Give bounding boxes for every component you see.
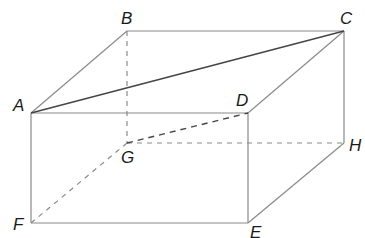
vertex-label-d: D [236,91,248,110]
vertex-label-f: F [13,215,25,234]
vertex-label-h: H [349,136,362,155]
vertex-label-g: G [121,148,134,167]
vertex-labels: ABCDGHFE [12,9,362,238]
visible-edges [31,31,344,223]
prism-diagram: ABCDGHFE [0,0,365,238]
diagonals [31,31,344,143]
hidden-edges [31,31,344,223]
vertex-label-b: B [121,9,132,28]
vertex-label-e: E [250,223,262,238]
diagonal-GD [127,113,248,143]
diagonal-AC [31,31,344,113]
vertex-label-a: A [12,96,24,115]
vertex-label-c: C [340,9,353,28]
edge-EH [248,143,344,223]
hidden-edge-FG [31,143,127,223]
